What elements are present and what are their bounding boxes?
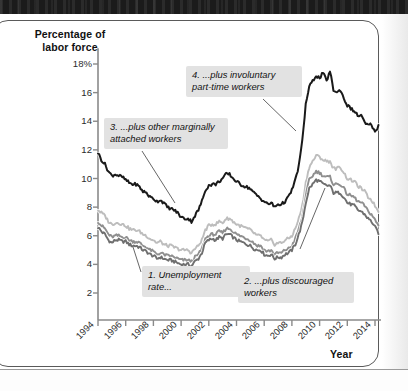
x-axis-title: Year [330, 348, 353, 361]
y-tick-label: 10 [48, 173, 92, 184]
scan-band-bottom [0, 369, 408, 391]
y-tick-label: 16 [48, 87, 92, 98]
y-tick-label: 12 [48, 144, 92, 155]
y-tick-label: 4 [48, 258, 92, 269]
callout-4: 4. ...plus involuntary part-time workers [186, 66, 302, 97]
y-tick-label: 2 [48, 287, 92, 298]
scan-noise [0, 0, 408, 14]
page-gutter-shading [382, 14, 408, 369]
y-axis-title: Percentage of labor force [24, 28, 116, 53]
callout-3: 3. ...plus other marginally attached wor… [104, 118, 228, 149]
y-tick-label: 14 [48, 115, 92, 126]
callout-2: 2. ...plus discouraged workers [238, 272, 354, 303]
callout-leader [133, 247, 141, 272]
callout-leader [263, 99, 296, 131]
callout-1: 1. Unemployment rate... [142, 266, 250, 297]
scan-band-top [0, 0, 408, 14]
y-tick-label: 18% [48, 58, 92, 69]
y-tick-label: 8 [48, 201, 92, 212]
y-tick-label: 6 [48, 230, 92, 241]
